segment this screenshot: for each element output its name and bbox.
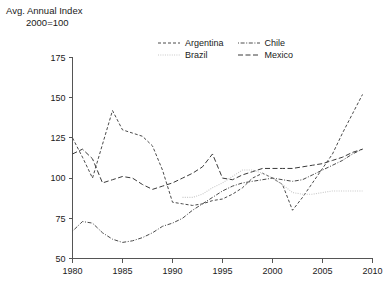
y-axis-tick-label: 175 bbox=[50, 53, 65, 63]
x-axis-tick-label: 1990 bbox=[162, 266, 182, 276]
x-axis-tick-label: 1995 bbox=[212, 266, 232, 276]
series-group bbox=[73, 94, 363, 242]
x-axis-tick-label: 2005 bbox=[312, 266, 332, 276]
y-axis-tick-label: 50 bbox=[55, 254, 65, 264]
y-axis-tick-label: 150 bbox=[50, 93, 65, 103]
y-axis-tick-label: 100 bbox=[50, 173, 65, 183]
series-line-chile bbox=[73, 149, 363, 242]
x-axis-tick-label: 2000 bbox=[262, 266, 282, 276]
y-axis-tick-label: 75 bbox=[55, 214, 65, 224]
chart-container: Avg. Annual Index 2000=100 ArgentinaChil… bbox=[0, 0, 389, 292]
axis-group bbox=[69, 58, 373, 263]
x-axis-tick-label: 1985 bbox=[112, 266, 132, 276]
series-line-brazil bbox=[183, 170, 363, 197]
x-axis-tick-label: 1980 bbox=[62, 266, 82, 276]
plot-area: 5075100125150175198019851990199520002005… bbox=[0, 0, 389, 292]
x-axis-tick-label: 2010 bbox=[362, 266, 382, 276]
series-line-mexico bbox=[73, 149, 363, 189]
y-axis-tick-label: 125 bbox=[50, 133, 65, 143]
